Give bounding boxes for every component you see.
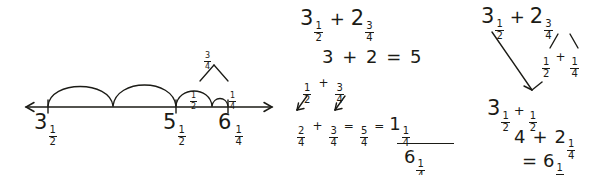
- mid4-operator1: +: [312, 119, 322, 133]
- mid1-den1: 2: [314, 33, 322, 43]
- r2-num1: 1: [542, 57, 550, 67]
- fraction-decomposition-branch: [186, 62, 242, 84]
- mid4-equals1: =: [344, 119, 354, 133]
- branch-top-fraction: 3 4: [203, 42, 212, 71]
- tick1-denominator: 2: [49, 137, 58, 147]
- r3-num1: 1: [501, 111, 509, 121]
- r3-den1: 2: [501, 123, 509, 133]
- worksheet-canvas: 3 4 1 2 1 4 3 1 2 5 1 2: [0, 0, 608, 175]
- middle-line1-expression: 3 1 2 +2 3 4: [300, 8, 375, 44]
- hop-quarter-numerator: 1: [229, 92, 236, 100]
- mid1-whole2: 2: [351, 6, 364, 30]
- r1-whole1: 3: [481, 4, 494, 28]
- mid1-operator: +: [330, 8, 345, 29]
- mid4-num4: 1: [402, 126, 410, 136]
- tick1-whole: 3: [34, 110, 48, 134]
- middle-line2-whole-sum: 3 + 2 = 5: [322, 48, 423, 66]
- mid4-den3: 4: [360, 138, 368, 148]
- branch-top-numerator: 3: [204, 52, 211, 60]
- tick3-whole: 6: [218, 110, 232, 134]
- mid3-num2: 3: [335, 83, 343, 93]
- r4-num2: 1: [567, 139, 575, 149]
- r3-whole1: 3: [487, 96, 500, 120]
- r4-den2: 4: [567, 151, 575, 161]
- tick2-whole: 5: [163, 110, 177, 134]
- r4-operator: +: [532, 126, 547, 147]
- mid1-num1: 1: [314, 21, 322, 31]
- mid4-num2: 3: [329, 126, 337, 136]
- r2-den2: 4: [570, 69, 578, 79]
- mid1-num2: 3: [365, 21, 373, 31]
- r5-whole: 6: [543, 150, 554, 171]
- r4-whole2: 2: [555, 126, 566, 147]
- mid3-operator: +: [318, 76, 328, 90]
- right-line2-split: 1 2 + 1 4: [541, 48, 580, 80]
- r5-equals: =: [522, 150, 537, 171]
- tick-label-three-and-half: 3 1 2: [34, 112, 58, 148]
- mid1-den2: 4: [365, 33, 373, 43]
- middle-final-answer: 6 1 4: [404, 148, 426, 175]
- r1-whole2: 2: [530, 4, 543, 28]
- mid4-equals2: =: [374, 119, 384, 133]
- middle-line4-equation: 2 4 + 3 4 = 5 4 =1 1 4: [296, 115, 411, 149]
- tick3-numerator: 1: [235, 125, 244, 135]
- r3-num2: 1: [529, 111, 537, 121]
- number-line-drawing: [0, 0, 290, 175]
- r5-num: 1: [556, 163, 564, 173]
- mid4-whole: 1: [389, 113, 400, 134]
- tick3-denominator: 4: [235, 137, 244, 147]
- right-final-answer: =6 1 4: [522, 152, 565, 175]
- hop-label-one-quarter: 1 4: [228, 82, 237, 111]
- tick-label-six-and-quarter: 6 1 4: [218, 112, 244, 148]
- mid4-num3: 5: [360, 126, 368, 136]
- tick1-numerator: 1: [49, 125, 58, 135]
- mid1-whole1: 3: [300, 6, 313, 30]
- hop-half-numerator: 1: [190, 92, 197, 100]
- r2-operator: +: [555, 50, 565, 64]
- r2-num2: 1: [570, 57, 578, 67]
- mid-ans-den: 4: [416, 171, 424, 175]
- branch-top-denominator: 4: [204, 63, 211, 71]
- r1-operator: +: [510, 6, 525, 27]
- tick-label-five-and-half: 5 1 2: [163, 112, 187, 148]
- mid4-num1: 2: [297, 126, 305, 136]
- conversion-arrows: [292, 94, 372, 116]
- hop-label-one-half: 1 2: [189, 82, 198, 111]
- mid-ans-num: 1: [416, 159, 424, 169]
- mid3-num1: 1: [303, 83, 311, 93]
- r3-operator: +: [514, 103, 525, 118]
- tick2-denominator: 2: [178, 137, 187, 147]
- mid-ans-whole: 6: [404, 146, 415, 167]
- mid4-den2: 4: [329, 138, 337, 148]
- r4-whole1: 4: [514, 126, 525, 147]
- mid4-den1: 4: [297, 138, 305, 148]
- tick2-numerator: 1: [178, 125, 187, 135]
- middle-answer-underline: [397, 143, 454, 144]
- hop-half-denominator: 2: [190, 103, 197, 111]
- r2-den1: 2: [542, 69, 550, 79]
